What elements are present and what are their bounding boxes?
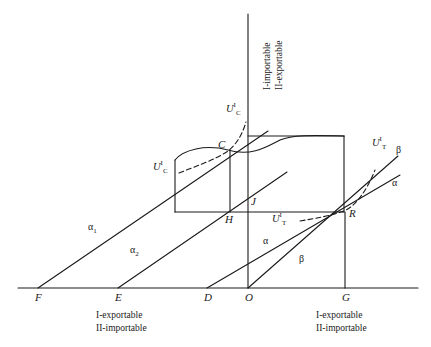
utility-label-uc-upper: UIC — [226, 102, 241, 117]
ray-beta-lower — [248, 156, 398, 288]
ray-alpha-lower — [207, 175, 400, 288]
caption-left-line2: II-importable — [96, 323, 147, 333]
ray-label-beta-right: β — [396, 145, 401, 156]
caption-right-line2: II-importable — [316, 323, 367, 333]
vertical-axis-label-line2: II-exportable — [274, 40, 284, 90]
caption-left-line1: I-exportable — [96, 310, 142, 320]
economics-box-diagram: I-importable II-exportable F E D O G C H… — [0, 0, 431, 347]
utility-label-uc-left-base: U — [153, 161, 161, 172]
point-label-e: E — [115, 292, 122, 304]
point-label-j: J — [251, 196, 256, 208]
utility-label-uc-upper-base: U — [226, 103, 234, 114]
point-label-f: F — [35, 292, 42, 304]
vertical-axis-label: I-importable II-exportable — [262, 40, 286, 90]
utility-label-ut-lower-sub: T — [282, 219, 286, 227]
utility-label-ut-upper-sub: T — [382, 143, 386, 151]
point-label-c: C — [218, 139, 225, 151]
utility-label-ut-upper-base: U — [372, 137, 380, 148]
ray-label-alpha-2-sub: 2 — [135, 250, 139, 258]
curve-through-c — [175, 135, 344, 160]
utility-label-uc-left-sub: C — [163, 167, 168, 175]
utility-label-uc-upper-sub: C — [236, 109, 241, 117]
ray-label-alpha-lower: α — [263, 236, 268, 247]
diagram-lines — [0, 0, 431, 347]
utility-label-ut-lower: UIT — [272, 212, 286, 227]
ray-label-alpha-right: α — [392, 178, 397, 189]
ray-label-alpha-2: α2 — [130, 245, 139, 258]
indifference-curve-ut — [300, 170, 375, 221]
vertical-axis-label-line1: I-importable — [262, 43, 272, 90]
utility-label-ut-lower-base: U — [272, 213, 280, 224]
ray-label-alpha-1: α1 — [88, 222, 97, 235]
ray-label-alpha-1-sub: 1 — [93, 227, 97, 235]
caption-right-line1: I-exportable — [316, 310, 362, 320]
utility-label-uc-left: UIC — [153, 160, 168, 175]
point-label-r: R — [349, 208, 356, 220]
caption-right: I-exportable II-importable — [316, 309, 367, 335]
point-label-h: H — [225, 214, 233, 226]
utility-label-ut-upper: UIT — [372, 136, 386, 151]
point-label-g: G — [342, 292, 350, 304]
point-label-o: O — [245, 292, 253, 304]
point-label-d: D — [204, 292, 212, 304]
ray-label-beta-lower: β — [299, 254, 304, 265]
caption-left: I-exportable II-importable — [96, 309, 147, 335]
ray-alpha-2 — [118, 172, 287, 288]
